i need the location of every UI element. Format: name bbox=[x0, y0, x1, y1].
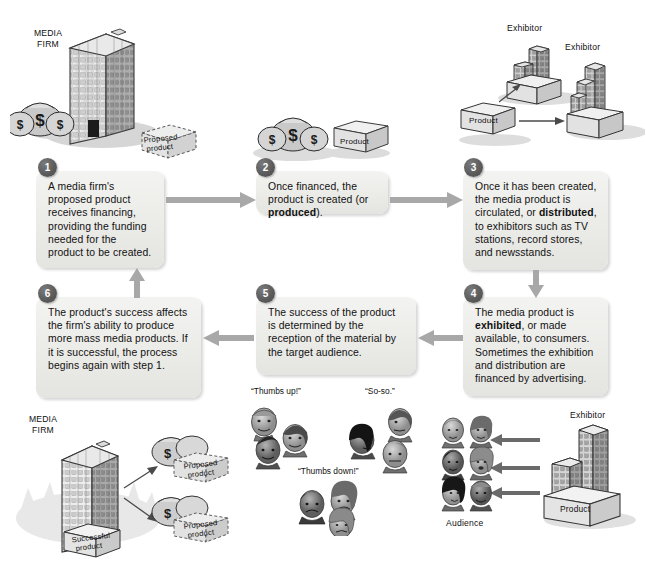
label-product-step2: Product bbox=[340, 137, 369, 147]
step-box-5[interactable]: The success of the product is determined… bbox=[256, 297, 416, 375]
svg-text:$: $ bbox=[311, 133, 318, 147]
svg-text:$: $ bbox=[57, 118, 64, 132]
money-bags-icon: $ $ $ bbox=[10, 103, 74, 136]
illustration-money-and-product: $ $ $ Product bbox=[250, 95, 395, 165]
step-box-3[interactable]: Once it has been created, the media prod… bbox=[463, 171, 608, 270]
money-product-svg: $ $ $ bbox=[250, 95, 395, 165]
label-product-bottom-right: Product bbox=[560, 504, 590, 514]
exhibitor-building-2 bbox=[567, 63, 623, 138]
label-thumbs-down: “Thumbs down!” bbox=[298, 466, 359, 476]
step-badge-5: 5 bbox=[256, 284, 275, 303]
step-box-2[interactable]: Once financed, the product is created (o… bbox=[256, 171, 388, 214]
label-media-firm-top: MEDIAFIRM bbox=[26, 28, 70, 49]
step-box-4[interactable]: The media product is exhibited, or made … bbox=[463, 297, 608, 396]
step-badge-2: 2 bbox=[256, 158, 275, 177]
illustration-audience-reactions: “Thumbs up!” “So-so.” “Thumbs down!” bbox=[240, 396, 435, 536]
step-badge-3: 3 bbox=[464, 158, 483, 177]
label-exhibitor-1: Exhibitor bbox=[507, 23, 542, 33]
step-badge-4: 4 bbox=[464, 284, 483, 303]
audience-faces bbox=[442, 416, 493, 511]
arrow-step3-to-step4 bbox=[528, 270, 544, 298]
step-box-1[interactable]: A media firm's proposed product receives… bbox=[36, 171, 164, 268]
arrow-step5-to-step6 bbox=[203, 330, 254, 346]
label-thumbs-up: “Thumbs up!” bbox=[251, 386, 301, 396]
step-2-text: Once financed, the product is created (o… bbox=[268, 180, 378, 220]
svg-text:$: $ bbox=[269, 133, 276, 147]
exhibitor-audience-svg bbox=[440, 408, 640, 558]
faces-so-so bbox=[349, 409, 412, 474]
exhibition-arrows bbox=[490, 434, 540, 499]
svg-text:$: $ bbox=[164, 506, 172, 521]
label-product-step3: Product bbox=[469, 116, 498, 126]
label-audience: Audience bbox=[446, 518, 483, 528]
step-badge-6: 6 bbox=[38, 284, 57, 303]
diagram-canvas: $ $ $ MEDIAFIRM Proposedproduct bbox=[0, 0, 646, 565]
arrow-step4-to-step5 bbox=[418, 330, 463, 346]
arrow-step1-to-step2 bbox=[166, 192, 256, 208]
label-exhibitor-3: Exhibitor bbox=[570, 410, 605, 420]
step-1-text: A media firm's proposed product receives… bbox=[48, 180, 154, 259]
exhibitor-building-1 bbox=[507, 46, 561, 104]
svg-text:$: $ bbox=[35, 111, 45, 130]
step-badge-1: 1 bbox=[38, 158, 57, 177]
svg-text:$: $ bbox=[17, 118, 24, 132]
illustration-media-firm-financing: $ $ $ MEDIAFIRM Proposedproduct bbox=[10, 12, 200, 162]
step-5-text: The success of the product is determined… bbox=[268, 306, 406, 359]
label-exhibitor-2: Exhibitor bbox=[565, 42, 600, 52]
faces-thumbs-up bbox=[252, 408, 308, 469]
illustration-successful-product-reinvestment: $ $ MEDIAFIRM Successfulproduct Proposed… bbox=[6, 400, 246, 560]
step-4-text: The media product is exhibited, or made … bbox=[475, 306, 598, 385]
label-proposed-product-top: Proposedproduct bbox=[143, 132, 179, 153]
step-3-text: Once it has been created, the media prod… bbox=[475, 180, 598, 259]
svg-text:$: $ bbox=[164, 446, 172, 461]
money-bags-icon: $ $ $ bbox=[258, 118, 328, 151]
arrow-step2-to-step3 bbox=[390, 192, 463, 208]
illustration-distribution-exhibitors: Exhibitor Exhibitor Product bbox=[455, 20, 645, 165]
step-6-text: The product's success affects the firm's… bbox=[48, 306, 191, 372]
exhibitors-svg bbox=[455, 20, 645, 165]
label-so-so: “So-so.” bbox=[365, 386, 395, 396]
svg-text:$: $ bbox=[288, 126, 298, 145]
faces-thumbs-down bbox=[299, 481, 357, 536]
arrow-step6-to-step1 bbox=[129, 268, 145, 298]
illustration-exhibition-to-audience: Exhibitor Product Audience bbox=[440, 408, 640, 558]
label-media-firm-bottom: MEDIAFIRM bbox=[22, 414, 64, 435]
step-box-6[interactable]: The product's success affects the firm's… bbox=[36, 297, 201, 398]
